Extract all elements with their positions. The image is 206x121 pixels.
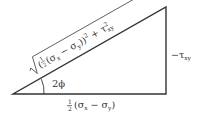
angle-label: 2ϕ — [52, 78, 65, 89]
base-label: 1 2 (σx − σy) — [67, 98, 115, 112]
hypotenuse-label: ( 1 2 (σx − σy))2 + τ2xy — [25, 0, 145, 77]
stress-triangle-diagram: 2ϕ 1 2 (σx − σy) −τxy ( 1 2 (σx − σy))2 … — [0, 0, 206, 121]
svg-text:2: 2 — [68, 105, 72, 112]
svg-text:(σx − σy))2 + τ2xy: (σx − σy))2 + τ2xy — [43, 18, 116, 68]
angle-arc — [41, 79, 44, 94]
vertical-side-label: −τxy — [171, 49, 192, 62]
svg-text:−τxy: −τxy — [171, 49, 192, 62]
triangle-shape — [13, 7, 166, 94]
svg-text:(σx − σy): (σx − σy) — [74, 99, 115, 112]
svg-text:1: 1 — [68, 98, 72, 105]
